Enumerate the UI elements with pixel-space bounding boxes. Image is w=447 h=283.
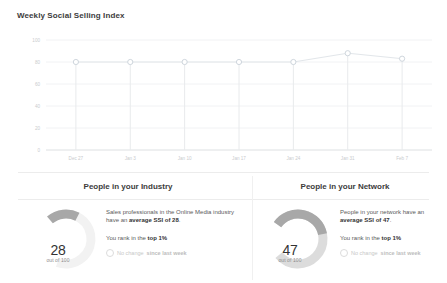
network-rank: You rank in the top 1% bbox=[340, 234, 445, 242]
ssi-dashboard: Weekly Social Selling Index 020406080100… bbox=[0, 0, 447, 283]
gauge-value-arc bbox=[50, 214, 77, 220]
network-description-post: . bbox=[390, 217, 392, 223]
chart-xtick-label: Dec 27 bbox=[69, 156, 84, 161]
section-divider-bottom bbox=[18, 199, 429, 200]
chart-data-point[interactable] bbox=[182, 59, 187, 64]
network-change-bold: since last week bbox=[381, 249, 421, 257]
network-gauge: 47 out of 100 bbox=[260, 206, 336, 272]
network-description-bold: average SSI of 47 bbox=[340, 217, 390, 223]
chart-xtick-label: Jan 24 bbox=[286, 156, 300, 161]
network-rank-bold: top 1% bbox=[381, 235, 401, 241]
ssi-line-chart: 020406080100Dec 27Jan 3Jan 10Jan 17Jan 2… bbox=[0, 30, 447, 168]
industry-panel: 28 out of 100 Sales professionals in the… bbox=[20, 206, 250, 276]
network-rank-pre: You rank in the bbox=[340, 235, 381, 241]
network-gauge-outof: out of 100 bbox=[260, 257, 320, 263]
network-gauge-value: 47 bbox=[260, 242, 320, 258]
no-change-icon bbox=[340, 249, 348, 257]
network-blurb: People in your network have an average S… bbox=[340, 208, 445, 258]
chart-canvas: 020406080100Dec 27Jan 3Jan 10Jan 17Jan 2… bbox=[0, 30, 447, 168]
chart-data-point[interactable] bbox=[128, 59, 133, 64]
industry-description: Sales professionals in the Online Media … bbox=[106, 208, 238, 225]
section-divider-top bbox=[18, 172, 429, 173]
section-heading-industry: People in your Industry bbox=[18, 182, 238, 191]
chart-ytick-label: 0 bbox=[37, 148, 40, 153]
chart-data-point[interactable] bbox=[399, 56, 404, 61]
industry-change: No change since last week bbox=[106, 249, 238, 257]
gauge-value-arc bbox=[278, 214, 323, 234]
industry-change-pre: No change bbox=[117, 249, 144, 257]
chart-data-point[interactable] bbox=[345, 51, 350, 56]
industry-rank-pre: You rank in the bbox=[106, 235, 147, 241]
page-title: Weekly Social Selling Index bbox=[17, 11, 124, 20]
network-change-pre: No change bbox=[351, 249, 378, 257]
network-change: No change since last week bbox=[340, 249, 445, 257]
industry-gauge: 28 out of 100 bbox=[28, 206, 104, 272]
chart-xtick-label: Jan 10 bbox=[178, 156, 192, 161]
network-description-pre: People in your network have an bbox=[340, 209, 424, 215]
chart-xtick-label: Jan 31 bbox=[341, 156, 355, 161]
chart-ytick-label: 40 bbox=[35, 104, 41, 109]
section-divider-vertical bbox=[252, 176, 253, 280]
industry-gauge-outof: out of 100 bbox=[28, 257, 88, 263]
section-heading-network: People in your Network bbox=[255, 182, 435, 191]
chart-xtick-label: Feb 7 bbox=[396, 156, 408, 161]
industry-change-bold: since last week bbox=[147, 249, 187, 257]
chart-ytick-label: 60 bbox=[35, 82, 41, 87]
industry-gauge-value: 28 bbox=[28, 242, 88, 258]
chart-xtick-label: Jan 3 bbox=[125, 156, 137, 161]
network-panel: 47 out of 100 People in your network hav… bbox=[258, 206, 438, 276]
no-change-icon bbox=[106, 249, 114, 257]
chart-ytick-label: 20 bbox=[35, 126, 41, 131]
chart-data-point[interactable] bbox=[73, 59, 78, 64]
industry-description-bold: average SSI of 28 bbox=[129, 217, 179, 223]
chart-xtick-label: Jan 17 bbox=[232, 156, 246, 161]
chart-data-point[interactable] bbox=[236, 59, 241, 64]
industry-rank: You rank in the top 1% bbox=[106, 234, 238, 242]
chart-data-point[interactable] bbox=[291, 59, 296, 64]
chart-ytick-label: 80 bbox=[35, 60, 41, 65]
industry-blurb: Sales professionals in the Online Media … bbox=[106, 208, 238, 258]
industry-rank-bold: top 1% bbox=[147, 235, 167, 241]
industry-description-post: . bbox=[179, 217, 181, 223]
network-description: People in your network have an average S… bbox=[340, 208, 445, 225]
chart-ytick-label: 100 bbox=[32, 38, 40, 43]
